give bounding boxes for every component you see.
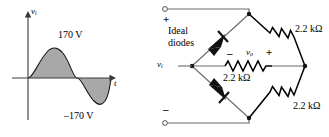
- ideal-diodes-note-line1: Ideal: [168, 26, 188, 36]
- wire-input-bottom: [168, 118, 250, 123]
- node-right: [303, 64, 307, 68]
- output-voltage-label: vo: [246, 48, 253, 58]
- diode-top-left-symbol: [208, 31, 228, 56]
- wire-input-top: [168, 9, 250, 14]
- node-bottom: [247, 116, 251, 120]
- ideal-diodes-note-line2: diodes: [168, 38, 194, 48]
- output-polarity-plus: +: [266, 47, 272, 58]
- figure-root: vi t 170 V –170 V: [0, 0, 329, 137]
- resistor-bottom-right-label: 2.2 kΩ: [293, 101, 320, 111]
- input-voltage-label: vi: [157, 60, 163, 70]
- input-polarity-minus: –: [163, 104, 169, 115]
- resistor-middle-label: 2.2 kΩ: [223, 73, 250, 83]
- output-polarity-minus: –: [227, 48, 233, 59]
- input-terminal-bottom: [163, 121, 168, 126]
- resistor-middle-symbol: [225, 61, 272, 71]
- node-top: [247, 12, 251, 16]
- resistor-top-right-label: 2.2 kΩ: [295, 24, 322, 34]
- input-terminal-top: [163, 7, 168, 12]
- wire-bridge-top-right: [249, 14, 305, 66]
- input-polarity-plus: +: [163, 14, 169, 25]
